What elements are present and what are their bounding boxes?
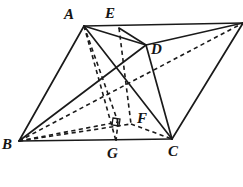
edge-T-C: [172, 23, 243, 139]
edge-A-T: [84, 23, 243, 26]
edge-A-D: [84, 26, 146, 45]
vertex-label-G: G: [107, 146, 118, 161]
edge-D-C: [146, 45, 172, 139]
edge-A-B: [19, 26, 84, 141]
edge-B-H-hidden: [19, 122, 118, 141]
edge-E-D: [119, 28, 146, 45]
geometry-figure: A E D F B G C: [0, 0, 243, 187]
edge-B-D: [19, 45, 146, 141]
edge-B-C: [19, 139, 172, 141]
vertex-label-C: C: [168, 144, 178, 159]
geometry-canvas: [0, 0, 243, 187]
edge-H-G-hidden: [116, 122, 118, 141]
vertex-label-E: E: [105, 6, 115, 21]
vertex-label-B: B: [2, 137, 12, 152]
vertex-label-D: D: [151, 42, 162, 57]
vertex-label-F: F: [137, 111, 147, 126]
edge-A-H-hidden: [84, 26, 118, 122]
edge-E-F-hidden: [119, 28, 131, 124]
vertex-label-A: A: [64, 7, 74, 22]
